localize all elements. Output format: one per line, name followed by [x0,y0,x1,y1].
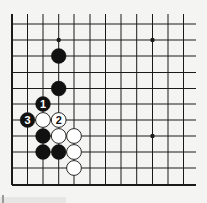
black-stone [51,81,66,96]
black-stone [51,49,66,64]
move-number-label: 1 [40,98,46,110]
move-number-label: 2 [56,114,62,126]
stone-body [51,129,66,144]
white-stone-move-2: 2 [51,113,66,128]
stone-body [51,145,66,160]
stone-body [67,161,82,176]
stones: 132 [20,49,81,176]
move-number-label: 3 [24,114,30,126]
stone-body [51,81,66,96]
go-board: 132 [0,0,207,203]
star-point [150,38,154,42]
white-stone [67,145,82,160]
black-stone-move-1: 1 [36,97,51,112]
black-stone [51,145,66,160]
black-stone [36,145,51,160]
stone-body [36,129,51,144]
black-stone-move-3: 3 [20,113,35,128]
stone-body [36,113,51,128]
black-stone [36,129,51,144]
star-point [150,134,154,138]
stone-body [67,145,82,160]
white-stone [36,113,51,128]
stone-body [36,145,51,160]
white-stone [67,161,82,176]
stone-body [51,49,66,64]
scan-artifact-bar [0,197,66,203]
star-point [57,38,61,42]
white-stone [67,129,82,144]
stone-body [67,129,82,144]
scan-artifact-edge [2,195,4,203]
white-stone [51,129,66,144]
